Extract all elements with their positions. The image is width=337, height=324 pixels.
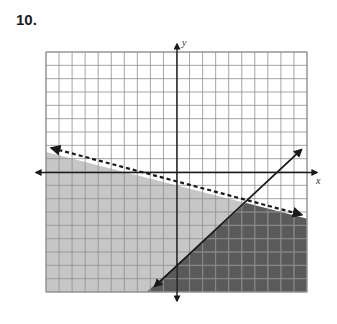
x-axis-label: x <box>315 175 321 186</box>
coordinate-graph: x y <box>0 0 337 324</box>
y-axis-label: y <box>181 37 187 48</box>
